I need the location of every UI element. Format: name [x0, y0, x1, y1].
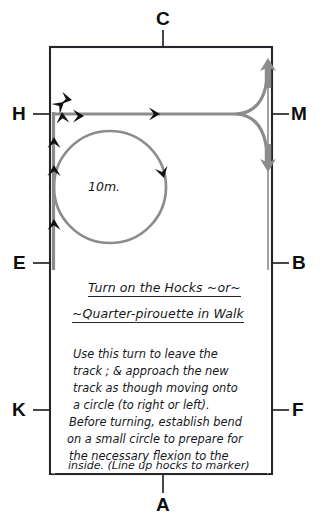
- notes-body-line-2: track ; & approach the new: [73, 364, 229, 378]
- marker-c: C: [156, 9, 170, 28]
- circle-size-label: 10m.: [88, 179, 120, 194]
- notes-title-line-2: ~Quarter-pirouette in Walk: [72, 306, 244, 323]
- marker-m: M: [291, 104, 307, 123]
- marker-e: E: [13, 253, 26, 272]
- marker-h: H: [12, 104, 26, 123]
- marker-a: A: [156, 495, 170, 514]
- arena-diagram: C M B F A K E H 10m. Turn on the Hocks ~…: [0, 0, 323, 523]
- notes-body-line-1: Use this turn to leave the: [73, 347, 218, 361]
- notes-body-line-4: a circle (to right or left).: [73, 398, 210, 412]
- notes-body-line-6: on a small circle to prepare for: [67, 432, 243, 446]
- arrow-up-right-icon: [260, 58, 276, 88]
- marker-k: K: [12, 400, 26, 419]
- notes-body-line-5: Before turning, establish bend: [69, 415, 242, 429]
- track-branch-down: [236, 114, 268, 157]
- notes-title-line-1: Turn on the Hocks ~or~: [88, 280, 241, 297]
- marker-f: F: [292, 400, 304, 419]
- notes-body-line-3: track as though moving onto: [73, 381, 238, 395]
- track-branch-up: [236, 74, 268, 114]
- turn-arrow-cluster-icon: [51, 92, 84, 124]
- notes-body-line-8: inside. (Line up hocks to marker): [68, 459, 250, 472]
- marker-b: B: [292, 253, 306, 272]
- arrow-down-right-icon: [260, 144, 276, 172]
